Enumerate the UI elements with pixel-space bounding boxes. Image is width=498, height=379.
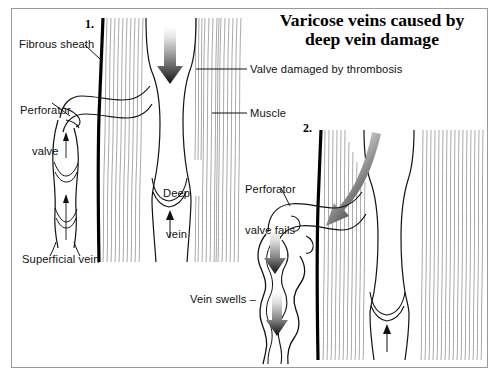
label-superficial-vein: Superficial vein — [22, 253, 99, 267]
reflux-arrow-2 — [326, 132, 381, 226]
muscle-striations-right-2 — [421, 130, 483, 360]
figure-varicose-veins: Varicose veins caused by deep vein damag… — [0, 0, 498, 379]
label-valve-damaged-by-thrombosis: Valve damaged by thrombosis — [250, 63, 402, 77]
figure-title-line1: Varicose veins caused by — [258, 11, 486, 30]
panel-1-illustration — [50, 18, 241, 262]
label-perforator-valve-line1: Perforator — [20, 104, 71, 118]
label-deep-vein-line2: vein — [163, 228, 190, 242]
label-deep-vein-line1: Deep — [163, 187, 190, 201]
muscle-striations-left-2 — [323, 130, 365, 360]
flow-arrow-down-1 — [157, 26, 183, 84]
label-fibrous-sheath: Fibrous sheath — [19, 38, 94, 52]
panel-1-number: 1. — [85, 17, 94, 32]
label-perforator-valve: Perforator valve — [20, 77, 71, 185]
figure-title-line2: deep vein damage — [258, 30, 486, 49]
deep-vein-outline-2-right — [401, 130, 414, 360]
flow-arrow-up-2 — [383, 324, 391, 352]
superficial-vein-right-1 — [74, 128, 78, 248]
figure-title: Varicose veins caused by deep vein damag… — [258, 11, 486, 49]
label-vein-swells: Vein swells – — [190, 293, 256, 307]
muscle-striations-right-1b — [195, 18, 202, 262]
fibrous-sheath-line-2 — [317, 130, 321, 360]
label-perforator-valve-fails-line1: Perforator — [245, 183, 296, 197]
perforator-vein-lower-1 — [63, 104, 152, 132]
panel-2-number: 2. — [303, 121, 312, 136]
muscle-striations-left-1 — [103, 18, 143, 262]
label-perforator-valve-fails-line2: valve fails — [245, 224, 296, 238]
label-perforator-valve-line2: valve — [20, 145, 71, 159]
deep-vein-valve-2 — [370, 292, 405, 315]
label-deep-vein: Deep vein — [163, 160, 190, 268]
label-muscle: Muscle — [250, 107, 286, 121]
deep-vein-outline-1 — [146, 18, 160, 262]
varicose-vein-right-2 — [288, 256, 305, 364]
fibrous-sheath-line-1 — [98, 18, 103, 262]
label-perforator-valve-fails: Perforator valve fails — [245, 156, 296, 264]
muscle-striations-right-1 — [202, 18, 241, 262]
failed-perforator-valve-2b — [306, 236, 313, 253]
